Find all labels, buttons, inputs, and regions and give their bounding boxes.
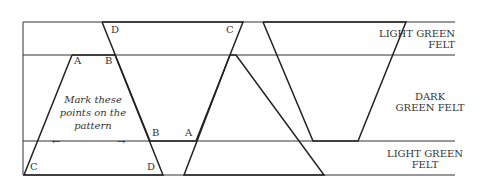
band-label-top-line2: FELT: [360, 39, 455, 50]
point-label-t2-b: B: [152, 127, 159, 138]
point-label-t2-c: C: [226, 24, 234, 35]
band-label-middle-line1: DARK: [385, 91, 475, 102]
note-line1: Mark these: [48, 93, 138, 106]
point-label-t2-d: D: [111, 24, 119, 35]
point-label-t1-a: A: [74, 55, 81, 66]
point-label-t1-b: B: [105, 55, 112, 66]
band-label-bottom-line2: FELT: [380, 159, 470, 170]
point-label-t1-d: D: [147, 161, 155, 172]
instruction-note: Mark these points on the pattern: [48, 93, 138, 132]
left-arrow-icon: ←: [52, 136, 60, 147]
band-label-top: LIGHT GREEN FELT: [360, 28, 455, 50]
band-label-bottom: LIGHT GREEN FELT: [380, 148, 470, 170]
band-label-middle: DARK GREEN FELT: [385, 91, 475, 113]
band-label-top-line1: LIGHT GREEN: [360, 28, 455, 39]
point-label-t1-c: C: [30, 161, 38, 172]
band-label-middle-line2: GREEN FELT: [385, 102, 475, 113]
right-arrow-icon: →: [117, 136, 125, 147]
point-label-t2-a: A: [185, 127, 192, 138]
note-line2: points on the: [48, 106, 138, 119]
band-label-bottom-line1: LIGHT GREEN: [380, 148, 470, 159]
felt-pattern-diagram: LIGHT GREEN FELT DARK GREEN FELT LIGHT G…: [0, 0, 490, 185]
note-line3: pattern: [48, 119, 138, 132]
trapezoid-3: [184, 55, 324, 175]
